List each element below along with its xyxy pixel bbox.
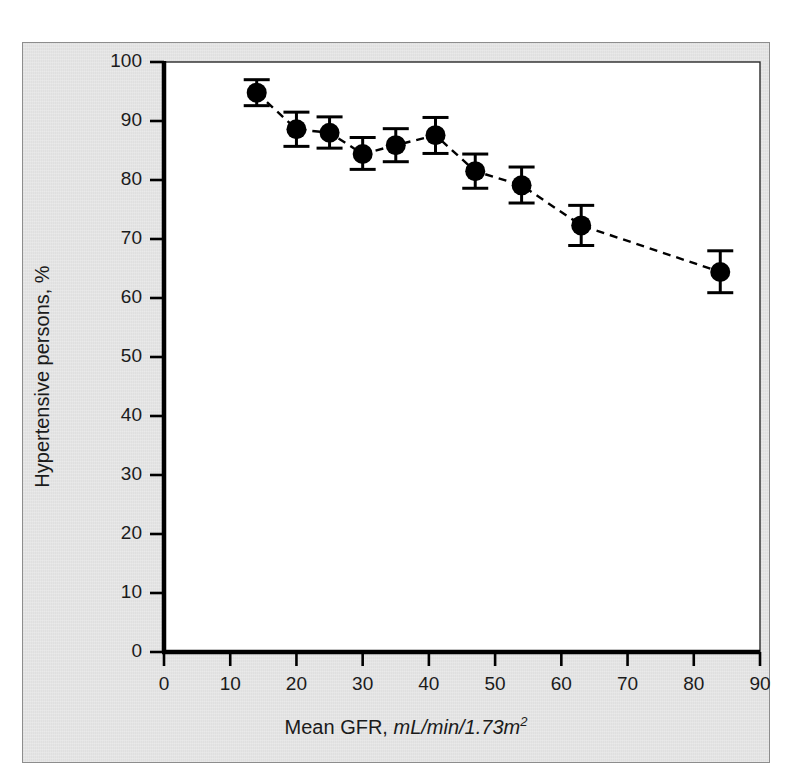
x-axis-tick-label: 0 bbox=[134, 673, 194, 695]
y-axis-tick-label: 60 bbox=[82, 286, 142, 308]
x-axis-tick-label: 70 bbox=[598, 673, 658, 695]
y-axis-tick-label: 90 bbox=[82, 109, 142, 131]
x-axis-label-plain: Mean GFR, bbox=[285, 716, 394, 738]
x-axis-tick-label: 60 bbox=[531, 673, 591, 695]
y-axis-tick-label: 40 bbox=[82, 404, 142, 426]
y-axis-label: Hypertensive persons, % bbox=[31, 177, 54, 577]
x-axis-tick-label: 30 bbox=[333, 673, 393, 695]
y-axis-tick-label: 30 bbox=[82, 463, 142, 485]
y-axis-tick-label: 80 bbox=[82, 168, 142, 190]
x-axis-tick-label: 10 bbox=[200, 673, 260, 695]
y-axis-tick-label: 50 bbox=[82, 345, 142, 367]
x-axis-label-italic: mL/min/1.73m bbox=[393, 716, 520, 738]
y-axis-tick-label: 70 bbox=[82, 227, 142, 249]
x-axis-tick-label: 50 bbox=[465, 673, 525, 695]
x-axis-tick-label: 90 bbox=[730, 673, 790, 695]
y-axis-tick-label: 100 bbox=[82, 50, 142, 72]
y-axis-tick-label: 20 bbox=[82, 522, 142, 544]
x-axis-tick-label: 80 bbox=[664, 673, 724, 695]
y-axis-tick-label: 0 bbox=[82, 640, 142, 662]
y-axis-tick-label: 10 bbox=[82, 581, 142, 603]
x-axis-label: Mean GFR, mL/min/1.73m2 bbox=[0, 714, 812, 739]
x-axis-label-superscript: 2 bbox=[520, 714, 527, 729]
x-axis-tick-label: 40 bbox=[399, 673, 459, 695]
x-axis-tick-label: 20 bbox=[266, 673, 326, 695]
